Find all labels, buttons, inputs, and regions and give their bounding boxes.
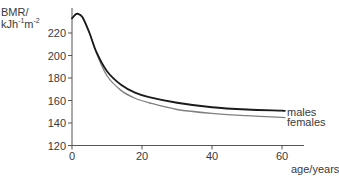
y-tick-label: 200 [42,50,66,62]
y-axis-label-line2: kJh-1m-2 [1,18,40,30]
x-tick-label: 20 [132,150,152,162]
x-tick-label: 60 [272,150,292,162]
series-lines [72,14,285,118]
x-tick-label: 0 [62,150,82,162]
y-axis-label-line1: BMR/ [1,6,40,18]
y-tick-label: 220 [42,27,66,39]
series-males-line [72,14,285,111]
x-axis-label: age/years [291,163,339,175]
y-tick-label: 140 [42,117,66,129]
x-tick-label: 40 [202,150,222,162]
y-tick-label: 160 [42,95,66,107]
legend-females: females [287,116,326,128]
axes [68,8,304,150]
y-axis-label: BMR/ kJh-1m-2 [1,6,40,30]
y-tick-label: 180 [42,72,66,84]
